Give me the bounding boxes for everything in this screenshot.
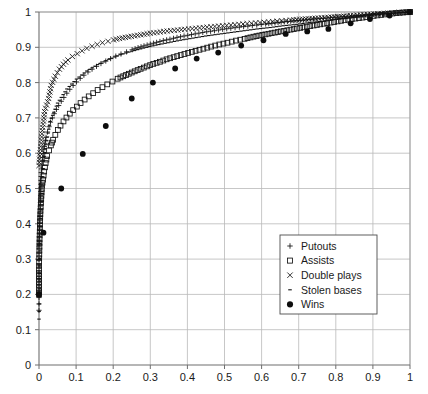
wins-dot-marker <box>36 292 42 298</box>
wins-dot-marker <box>387 13 393 19</box>
y-tick-label: 0.6 <box>16 147 31 159</box>
x-tick-label: 0.1 <box>68 371 83 383</box>
wins-dot-marker <box>150 80 156 86</box>
x-tick-label: 0.3 <box>143 371 158 383</box>
wins-dot-marker <box>304 29 310 35</box>
wins-dot-marker <box>283 31 289 37</box>
x-tick-label: 0.5 <box>217 371 232 383</box>
wins-dot-marker <box>129 96 135 102</box>
y-tick-label: 0.4 <box>16 218 31 230</box>
wins-dot-marker <box>58 186 64 192</box>
y-tick-label: 0.5 <box>16 183 31 195</box>
x-tick-label: 0.8 <box>328 371 343 383</box>
y-tick-label: 0.7 <box>16 112 31 124</box>
wins-dot-marker <box>41 230 47 236</box>
x-tick-label: 0.7 <box>291 371 306 383</box>
chart-container: 00.10.20.30.40.50.60.70.80.91 00.10.20.3… <box>0 0 428 394</box>
legend-wins-dot-marker <box>287 301 293 307</box>
legend-label-text: Putouts <box>301 240 337 252</box>
wins-dot-marker <box>238 43 244 49</box>
wins-dot-marker <box>407 9 413 15</box>
y-tick-label: 0.1 <box>16 324 31 336</box>
wins-dot-marker <box>194 56 200 62</box>
y-tick-label: 0 <box>25 359 31 371</box>
wins-dot-marker <box>325 26 331 32</box>
x-tick-label: 0.2 <box>106 371 121 383</box>
x-tick-label: 0.9 <box>365 371 380 383</box>
x-tick-label: 0 <box>36 371 42 383</box>
wins-dot-marker <box>172 66 178 72</box>
legend-label-text: Wins <box>301 298 324 310</box>
y-tick-label: 0.2 <box>16 288 31 300</box>
legend-label-text: Double plays <box>301 269 362 281</box>
legend-label-text: Stolen bases <box>301 284 362 296</box>
chart-background <box>0 0 428 394</box>
legend-label-text: Assists <box>301 254 334 266</box>
x-tick-label: 0.4 <box>180 371 195 383</box>
lorenz-scatter-chart: 00.10.20.30.40.50.60.70.80.91 00.10.20.3… <box>0 0 428 394</box>
x-tick-label: 0.6 <box>254 371 269 383</box>
y-tick-label: 1 <box>25 6 31 18</box>
wins-dot-marker <box>348 20 354 26</box>
x-tick-label: 1 <box>407 371 413 383</box>
wins-dot-marker <box>215 50 221 56</box>
y-tick-label: 0.9 <box>16 41 31 53</box>
wins-dot-marker <box>80 151 86 157</box>
chart-legend[interactable]: PutoutsAssistsDouble playsStolen basesWi… <box>280 235 377 314</box>
wins-dot-marker <box>261 37 267 43</box>
y-tick-label: 0.8 <box>16 77 31 89</box>
wins-dot-marker <box>103 123 109 129</box>
y-tick-label: 0.3 <box>16 253 31 265</box>
wins-dot-marker <box>367 16 373 22</box>
